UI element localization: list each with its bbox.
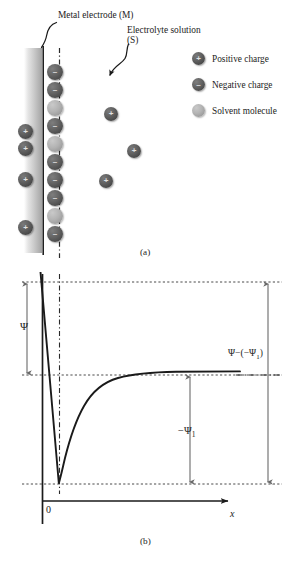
origin-label: 0 (46, 504, 51, 515)
positive-charge-glyph: + (104, 177, 109, 185)
sphere-layer: ++++–––––––+++ (0, 0, 298, 270)
negative-charge-glyph: – (53, 158, 57, 166)
negative-charge-glyph: – (53, 68, 57, 76)
positive-charge-glyph: + (23, 144, 28, 152)
bulk-charge-positive: + (127, 144, 141, 158)
positive-charge-glyph: + (109, 110, 114, 118)
panel-a-caption: (a) (140, 247, 150, 257)
negative-charge-glyph: – (53, 176, 57, 184)
psi-label: Ψ (20, 320, 28, 332)
total-potential-label-suffix: ) (260, 347, 263, 358)
x-axis-label: x (230, 508, 234, 519)
minus-psi1-label: −Ψ1 (178, 425, 195, 439)
potential-profile-curve (41, 272, 241, 483)
negative-charge-glyph: – (53, 230, 57, 238)
metal-side-charge-positive: + (18, 124, 33, 139)
inner-layer-particle-solvent (47, 100, 63, 116)
figure-container: Metal electrode (M) Electrolyte solution… (0, 0, 298, 561)
negative-charge-glyph: – (53, 194, 57, 202)
metal-side-charge-positive: + (18, 220, 33, 235)
positive-charge-glyph: + (132, 147, 137, 155)
total-potential-label: Ψ−(−Ψ1) (228, 347, 263, 360)
inner-layer-particle-solvent (47, 208, 63, 224)
inner-layer-particle-negative: – (47, 154, 63, 170)
inner-layer-particle-negative: – (47, 118, 63, 134)
panel-b-caption: (b) (140, 536, 151, 546)
bulk-charge-positive: + (104, 107, 118, 121)
negative-charge-glyph: – (53, 122, 57, 130)
total-potential-label-prefix: Ψ−(−Ψ (228, 347, 256, 358)
minus-psi1-label-main: −Ψ (178, 425, 192, 436)
inner-layer-particle-negative: – (47, 64, 63, 80)
inner-layer-particle-solvent (47, 136, 63, 152)
bulk-charge-positive: + (99, 174, 113, 188)
minus-psi1-label-sub: 1 (192, 430, 196, 439)
negative-charge-glyph: – (53, 86, 57, 94)
inner-layer-particle-negative: – (47, 190, 63, 206)
positive-charge-glyph: + (23, 175, 28, 183)
inner-layer-particle-negative: – (47, 172, 63, 188)
positive-charge-glyph: + (23, 223, 28, 231)
metal-side-charge-positive: + (18, 172, 33, 187)
positive-charge-glyph: + (23, 127, 28, 135)
inner-layer-particle-negative: – (47, 82, 63, 98)
panel-b-graphics (0, 272, 298, 561)
inner-layer-particle-negative: – (47, 226, 63, 242)
metal-side-charge-positive: + (18, 141, 33, 156)
